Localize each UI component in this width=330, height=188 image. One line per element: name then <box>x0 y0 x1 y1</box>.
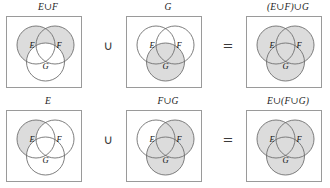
set-label-f: F <box>175 40 182 50</box>
venn-diagram: E F G <box>7 111 83 183</box>
universe-box: E F G <box>6 110 82 182</box>
panel-label: E <box>0 95 96 107</box>
panel-f-union-g: F∪G E F G <box>120 94 216 188</box>
union-symbol: ∪ <box>96 132 120 148</box>
venn-diagram: E F G <box>127 17 203 89</box>
diagram-row-top: E∪F E F G ∪ G <box>0 0 330 94</box>
set-label-e: E <box>28 40 35 50</box>
panel-label: G <box>120 1 216 13</box>
panel-label: E∪(F∪G) <box>240 95 330 107</box>
set-label-g: G <box>42 61 48 71</box>
set-label-f: F <box>295 134 302 144</box>
operator-union-top-1: ∪ <box>96 0 120 94</box>
panel-e-union-f-paren-union-g: (E∪F)∪G E F G <box>240 0 330 94</box>
set-label-e: E <box>268 40 275 50</box>
venn-associativity-figure: E∪F E F G ∪ G <box>0 0 330 188</box>
set-label-f: F <box>175 134 182 144</box>
panel-label: E∪F <box>0 1 96 13</box>
set-label-g: G <box>162 61 168 71</box>
set-label-g: G <box>42 155 48 165</box>
panel-label: (E∪F)∪G <box>240 1 330 13</box>
set-label-e: E <box>148 40 155 50</box>
set-label-f: F <box>55 134 62 144</box>
diagram-row-bottom: E E F G ∪ F∪G <box>0 94 330 188</box>
set-label-e: E <box>28 134 35 144</box>
operator-union-bottom-1: ∪ <box>96 94 120 188</box>
set-label-g: G <box>282 155 288 165</box>
operator-equals-top: = <box>216 0 240 94</box>
universe-box: E F G <box>126 16 202 88</box>
panel-e: E E F G <box>0 94 96 188</box>
universe-box: E F G <box>246 110 322 182</box>
venn-diagram: E F G <box>127 111 203 183</box>
panel-e-union-paren-f-union-g: E∪(F∪G) E F G <box>240 94 330 188</box>
venn-diagram: E F G <box>7 17 83 89</box>
equals-symbol: = <box>216 38 240 54</box>
set-label-e: E <box>268 134 275 144</box>
panel-e-union-f: E∪F E F G <box>0 0 96 94</box>
universe-box: E F G <box>126 110 202 182</box>
union-symbol: ∪ <box>96 38 120 54</box>
venn-diagram: E F G <box>247 111 323 183</box>
set-label-f: F <box>55 40 62 50</box>
set-label-g: G <box>162 155 168 165</box>
set-label-g: G <box>282 61 288 71</box>
equals-symbol: = <box>216 132 240 148</box>
panel-label: F∪G <box>120 95 216 107</box>
operator-equals-bottom: = <box>216 94 240 188</box>
universe-box: E F G <box>6 16 82 88</box>
universe-box: E F G <box>246 16 322 88</box>
panel-g: G E F G <box>120 0 216 94</box>
set-label-e: E <box>148 134 155 144</box>
set-label-f: F <box>295 40 302 50</box>
venn-diagram: E F G <box>247 17 323 89</box>
